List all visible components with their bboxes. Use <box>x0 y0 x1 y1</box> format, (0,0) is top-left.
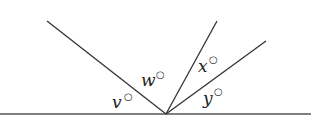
degree-symbol: ○ <box>214 86 223 97</box>
angle-v-label: v ○ <box>112 91 133 112</box>
angle-v-variable: v <box>112 92 122 112</box>
left-ray <box>47 21 166 114</box>
right-ray <box>166 41 266 114</box>
angle-y-label: y ○ <box>202 86 223 108</box>
angle-y-variable: y <box>202 88 213 108</box>
angle-x-variable: x <box>198 56 208 76</box>
degree-symbol: ○ <box>209 54 218 65</box>
degree-symbol: ○ <box>156 69 165 80</box>
angle-diagram: v ○ w ○ x ○ y ○ <box>0 0 311 123</box>
degree-symbol: ○ <box>124 91 133 102</box>
angle-w-variable: w <box>141 70 156 90</box>
angle-x-label: x ○ <box>198 54 218 76</box>
angle-w-label: w ○ <box>141 69 165 90</box>
diagram-svg: v ○ w ○ x ○ y ○ <box>0 0 311 123</box>
